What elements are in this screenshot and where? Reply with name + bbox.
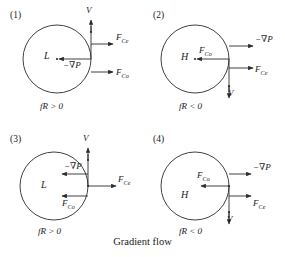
panel-1-center-dot [56, 58, 58, 60]
panel-4-velocity-origin-dot [228, 211, 230, 213]
panel-2-diagram [143, 2, 285, 122]
panel-1-centrifugal-label: FCe [116, 33, 128, 44]
panel-4-center-label: H [181, 190, 188, 200]
panel-3-center-label: L [41, 180, 47, 190]
panel-4-condition: fR < 0 [179, 226, 202, 236]
panel-3-pressure-gradient-label: −∇P [64, 162, 82, 171]
panel-2-pressure-gradient-label: −∇P [255, 35, 273, 44]
panel-1-pressure-gradient-label: −∇P [63, 61, 81, 70]
panel-1-center-label: L [44, 51, 50, 61]
panel-3: (3) L V −∇P FCe FCo fR > 0 [0, 126, 142, 246]
panel-1: (1) L V −∇P FCe FCo fR > [0, 2, 142, 122]
panel-2-centrifugal-label: FCe [255, 65, 267, 76]
panel-1-velocity-origin-dot [90, 31, 92, 33]
panel-2-velocity-origin-dot [228, 85, 230, 87]
panel-2-coriolis-label: FCo [199, 46, 212, 57]
panel-3-condition: fR > 0 [38, 226, 61, 236]
gradient-flow-figure: (1) L V −∇P FCe FCo fR > [0, 0, 285, 257]
panel-4-centrifugal-label: FCe [253, 199, 265, 210]
panel-2-condition: fR < 0 [179, 101, 202, 111]
panel-2-center-label: H [181, 52, 188, 62]
panel-2-center-dot [194, 58, 196, 60]
panel-4-velocity-label: V [227, 215, 233, 224]
panel-3-velocity-origin-dot [87, 159, 89, 161]
panel-4-diagram [143, 126, 285, 246]
panel-4-coriolis-label: FCo [197, 171, 210, 182]
panel-3-diagram [0, 126, 142, 246]
panel-2-velocity-label: V [228, 89, 234, 98]
panel-1-velocity-label: V [86, 6, 92, 15]
panel-4: (4) H V −∇P FCe FCo fR < 0 [143, 126, 285, 246]
panel-3-velocity-label: V [83, 134, 89, 143]
figure-caption: Gradient flow [0, 236, 285, 247]
panel-2: (2) H V −∇P FCe FCo fR < 0 [143, 2, 285, 122]
panel-3-coriolis-label: FCo [62, 199, 75, 210]
panel-1-coriolis-label: FCo [116, 68, 129, 79]
panel-4-pressure-gradient-label: −∇P [253, 163, 271, 172]
panel-3-centrifugal-label: FCe [118, 175, 130, 186]
panel-1-condition: fR > 0 [40, 101, 63, 111]
